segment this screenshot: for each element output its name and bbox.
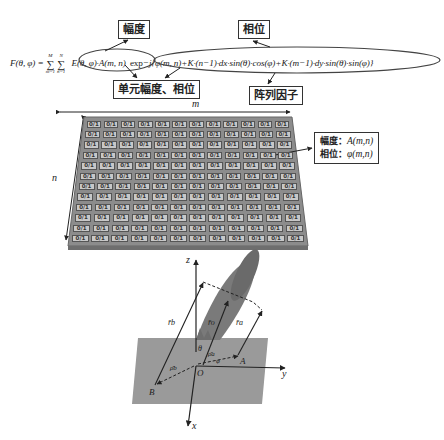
grid-cell: 0/1 <box>248 235 265 242</box>
vector-rho-a-label: ρ̄a <box>208 350 215 358</box>
grid-cell: 0/1 <box>93 225 110 232</box>
callout-amp-row: 幅度：A(m,n) <box>320 135 373 148</box>
grid-cell: 0/1 <box>286 225 303 232</box>
grid-cell: 0/1 <box>111 235 128 242</box>
grid-cell: 0/1 <box>170 225 187 232</box>
grid-cell: 0/1 <box>135 162 151 169</box>
grid-cell: 0/1 <box>103 131 118 138</box>
grid-cell: 0/1 <box>137 141 152 148</box>
grid-cell: 0/1 <box>100 152 115 159</box>
grid-cell: 0/1 <box>280 173 296 180</box>
grid-cell: 0/1 <box>243 162 259 169</box>
grid-cell: 0/1 <box>287 235 304 242</box>
grid-cell: 0/1 <box>241 131 256 138</box>
point-b-label: B <box>149 387 155 397</box>
grid-cell: 0/1 <box>172 141 187 148</box>
grid-cell: 0/1 <box>208 214 225 221</box>
grid-cell: 0/1 <box>283 193 299 200</box>
grid-cell: 0/1 <box>278 152 293 159</box>
vector-rb-label: r̄b <box>168 318 175 327</box>
grid-cell: 0/1 <box>224 141 239 148</box>
grid-cell: 0/1 <box>207 131 222 138</box>
grid-cell: 0/1 <box>131 235 148 242</box>
grid-cell: 0/1 <box>96 193 112 200</box>
grid-cell: 0/1 <box>242 141 257 148</box>
vector-ro-label: r̄o <box>208 318 215 327</box>
grid-cell: 0/1 <box>207 162 223 169</box>
grid-cell: 0/1 <box>119 141 134 148</box>
grid-cell: 0/1 <box>263 183 279 190</box>
grid-cell: 0/1 <box>77 193 93 200</box>
grid-cell: 0/1 <box>76 204 92 211</box>
grid-cell: 0/1 <box>104 121 119 128</box>
grid-cell: 0/1 <box>99 162 115 169</box>
grid-cell: 0/1 <box>246 204 262 211</box>
grid-cell: 0/1 <box>243 152 258 159</box>
grid-cell: 0/1 <box>154 141 169 148</box>
grid-cell: 0/1 <box>189 235 206 242</box>
grid-cell: 0/1 <box>223 121 238 128</box>
grid-cell: 0/1 <box>228 225 245 232</box>
grid-cell: 0/1 <box>265 204 281 211</box>
grid-cell: 0/1 <box>116 173 132 180</box>
grid-cell: 0/1 <box>172 131 187 138</box>
grid-cell: 0/1 <box>189 183 205 190</box>
grid-cell: 0/1 <box>155 131 170 138</box>
grid-cell: 0/1 <box>267 235 284 242</box>
axis-x-label: x <box>192 420 196 431</box>
grid-cell: 0/1 <box>81 162 97 169</box>
grid-cell: 0/1 <box>227 204 243 211</box>
grid-cell: 0/1 <box>132 214 149 221</box>
grid-cell: 0/1 <box>267 225 284 232</box>
axis-z-label: z <box>186 254 190 265</box>
grid-cell: 0/1 <box>276 131 291 138</box>
grid-cell: 0/1 <box>172 121 187 128</box>
grid-cell: 0/1 <box>266 214 283 221</box>
grid-cell: 0/1 <box>281 183 297 190</box>
grid-cell: 0/1 <box>152 183 168 190</box>
grid-cell: 0/1 <box>189 162 205 169</box>
point-a-label: A <box>240 356 246 366</box>
grid-cell: 0/1 <box>189 152 204 159</box>
grid-cell: 0/1 <box>137 131 152 138</box>
grid-cell: 0/1 <box>117 162 133 169</box>
grid-cell: 0/1 <box>133 204 149 211</box>
grid-cell: 0/1 <box>171 162 187 169</box>
grid-cell: 0/1 <box>94 214 111 221</box>
grid-cell: 0/1 <box>189 204 205 211</box>
grid-cell: 0/1 <box>97 183 113 190</box>
grid-cell: 0/1 <box>155 121 170 128</box>
grid-cell: 0/1 <box>225 162 241 169</box>
grid-cell: 0/1 <box>72 235 89 242</box>
grid-cell: 0/1 <box>118 152 133 159</box>
grid-cell: 0/1 <box>171 152 186 159</box>
grid-cell: 0/1 <box>189 141 204 148</box>
grid-cell: 0/1 <box>227 214 244 221</box>
antenna-element-grid: 0/10/10/10/10/10/10/10/10/10/10/10/10/10… <box>0 0 444 440</box>
callout-phase-row: 相位：φ(m,n) <box>320 148 373 161</box>
grid-cell: 0/1 <box>225 152 240 159</box>
grid-cell: 0/1 <box>245 193 261 200</box>
grid-cell: 0/1 <box>206 121 221 128</box>
grid-cell: 0/1 <box>170 235 187 242</box>
grid-cell: 0/1 <box>226 183 242 190</box>
grid-cell: 0/1 <box>134 183 150 190</box>
grid-cell: 0/1 <box>85 131 100 138</box>
grid-cell: 0/1 <box>75 214 92 221</box>
grid-cell: 0/1 <box>189 225 206 232</box>
grid-cell: 0/1 <box>73 225 90 232</box>
grid-cell: 0/1 <box>224 131 239 138</box>
grid-cell: 0/1 <box>247 225 264 232</box>
grid-cell: 0/1 <box>241 121 256 128</box>
grid-cell: 0/1 <box>115 183 131 190</box>
grid-cell: 0/1 <box>189 173 205 180</box>
grid-cell: 0/1 <box>138 121 153 128</box>
grid-cell: 0/1 <box>151 204 167 211</box>
grid-cell: 0/1 <box>101 141 116 148</box>
grid-cell: 0/1 <box>264 193 280 200</box>
grid-cell: 0/1 <box>208 204 224 211</box>
grid-cell: 0/1 <box>228 235 245 242</box>
grid-cell: 0/1 <box>115 193 131 200</box>
grid-cell: 0/1 <box>136 152 151 159</box>
grid-cell: 0/1 <box>151 214 168 221</box>
